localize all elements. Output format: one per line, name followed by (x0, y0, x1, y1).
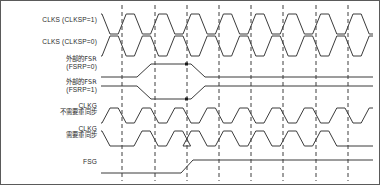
signal-trace-fsr-fsrp1 (101, 86, 373, 99)
signal-trace-fsg (101, 160, 373, 173)
sample-marker-fsrp0 (185, 63, 188, 66)
waveform-canvas (1, 1, 379, 184)
sample-marker-fsrp1 (185, 98, 188, 101)
timing-diagram-figure: CLKS (CLKSP=1) CLKS (CLKSP=0) 外部的FSR (FS… (0, 0, 380, 185)
signal-trace-fsr-fsrp0 (101, 64, 373, 77)
signal-trace-clks-clksp0 (101, 36, 373, 56)
signal-traces-group (101, 14, 373, 173)
signal-trace-clks-clksp1 (101, 14, 373, 34)
signal-trace-clkg-resync (101, 131, 373, 146)
signal-trace-clkg-no-resync (101, 108, 373, 123)
